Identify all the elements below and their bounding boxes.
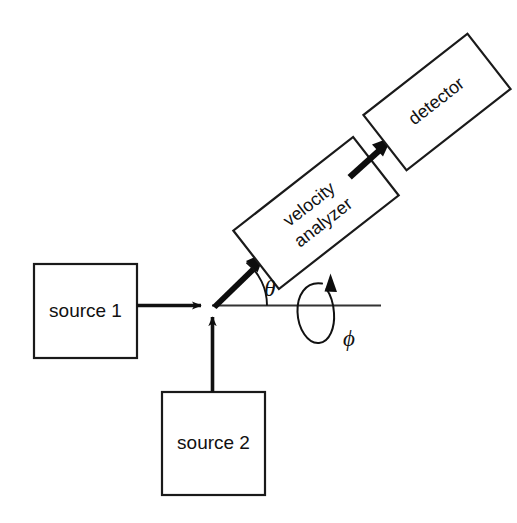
source-2-label: source 2 <box>177 432 250 453</box>
phi-label: ϕ <box>343 326 355 351</box>
scattering-apparatus-diagram: source 1 source 2 velocity analyzer dete… <box>0 0 517 523</box>
diagram-canvas: source 1 source 2 velocity analyzer dete… <box>0 0 517 523</box>
phi-rotation-indicator <box>297 274 337 344</box>
source-1-label: source 1 <box>49 300 122 321</box>
theta-label: θ <box>264 276 275 301</box>
